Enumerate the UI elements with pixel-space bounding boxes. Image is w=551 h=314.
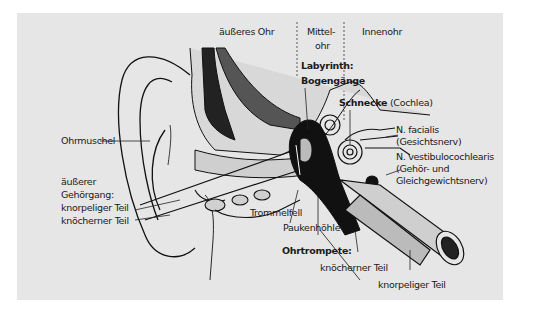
label-canal-4: knöcherner Teil [61,215,129,227]
label-canal-2: Gehörgang: [61,189,114,201]
label-eardrum: Trommelfell [250,207,302,219]
label-middle-ear-line1: Mittel- [307,26,335,38]
label-labyrinth: Labyrinth: [301,60,353,72]
label-inner-ear: Innenohr [362,26,402,38]
auricle-drawing [119,57,195,257]
label-canal-3: knorpeliger Teil [61,202,129,214]
label-auricle: Ohrmuschel [61,135,115,147]
label-semicircular-canals: Bogengänge [301,75,365,87]
label-eustachian-tube: Ohrtrompete: [282,245,352,257]
label-facial-nerve-2: (Gesichtsnerv) [396,136,461,148]
label-eustachian-bony: knöcherner Teil [320,262,388,274]
label-cochlea-latin: (Cochlea) [387,97,432,108]
label-outer-ear: äußeres Ohr [219,26,274,38]
label-canal-1: äußerer [61,176,96,188]
label-vestibulo-3: Gleichgewichtsnerv) [396,175,487,187]
label-cochlea: Schnecke (Cochlea) [339,97,433,109]
label-middle-ear-line2: ohr [315,40,330,52]
label-facial-nerve-1: N. facialis [396,124,439,136]
label-cochlea-bold: Schnecke [339,97,387,108]
label-eustachian-cartilage: knorpeliger Teil [378,279,446,291]
label-vestibulo-2: (Gehör- und [396,163,449,175]
label-vestibulo-1: N. vestibulocochlearis [396,151,494,163]
label-tympanic-cavity: Paukenhöhle [283,222,340,234]
